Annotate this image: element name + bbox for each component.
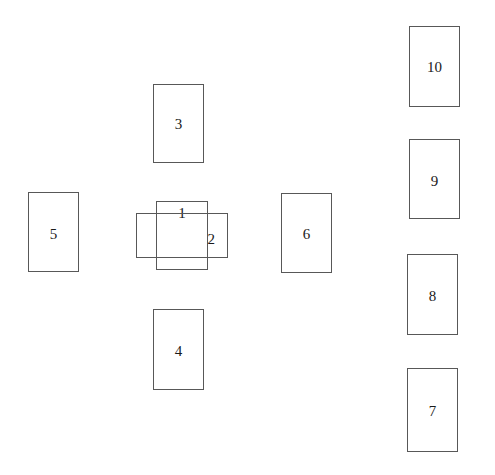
rect-4[interactable]: 4 [153,309,204,390]
rect-10[interactable]: 10 [409,26,460,107]
rect-4-label: 4 [154,344,203,359]
rect-9-label: 9 [410,174,459,189]
rect-10-label: 10 [410,60,459,75]
rect-8[interactable]: 8 [407,254,458,335]
rect-6[interactable]: 6 [281,193,332,273]
rect-2[interactable]: 2 [136,213,228,258]
rect-7-label: 7 [408,404,457,419]
rect-6-label: 6 [282,227,331,242]
rect-8-label: 8 [408,289,457,304]
rect-3[interactable]: 3 [153,84,204,163]
rect-7[interactable]: 7 [407,368,458,452]
rect-5-label: 5 [29,227,78,242]
rect-3-label: 3 [154,117,203,132]
rect-2-label: 2 [208,232,216,247]
rect-5[interactable]: 5 [28,192,79,272]
rect-9[interactable]: 9 [409,139,460,219]
diagram-canvas: 10 9 8 7 3 4 5 6 1 2 [0,0,495,475]
